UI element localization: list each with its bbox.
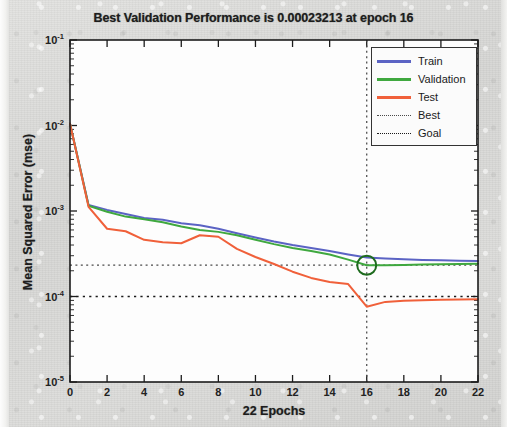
legend-item-validation[interactable]: Validation: [372, 70, 476, 88]
x-tick-label: 2: [92, 386, 122, 398]
x-tick-label: 4: [129, 386, 159, 398]
y-tick-label: 10-1: [0, 32, 64, 46]
x-tick-label: 6: [166, 386, 196, 398]
x-tick-label: 18: [389, 386, 419, 398]
legend-label: Train: [418, 55, 443, 67]
x-tick-label: 8: [203, 386, 233, 398]
legend-swatch-test: [377, 96, 411, 99]
legend-swatch-train: [377, 60, 411, 63]
plot-title: Best Validation Performance is 0.0002321…: [0, 11, 507, 25]
legend-label: Best: [418, 109, 440, 121]
y-tick-mantissa: 10: [45, 290, 57, 302]
x-tick-label: 10: [240, 386, 270, 398]
x-tick-label: 0: [55, 386, 85, 398]
y-tick-label: 10-3: [0, 203, 64, 217]
legend-label: Test: [418, 91, 438, 103]
y-tick-mantissa: 10: [45, 34, 57, 46]
legend-swatch-best: [377, 115, 411, 116]
x-tick-label: 16: [352, 386, 382, 398]
x-tick-label: 22: [463, 386, 493, 398]
y-tick-exponent: -3: [57, 203, 64, 212]
legend-item-goal[interactable]: Goal: [372, 124, 476, 142]
legend-item-test[interactable]: Test: [372, 88, 476, 106]
y-tick-label: 10-2: [0, 118, 64, 132]
performance-plot: Best Validation Performance is 0.0002321…: [0, 0, 507, 427]
legend-label: Goal: [418, 127, 441, 139]
legend-label: Validation: [418, 73, 466, 85]
x-axis-label: 22 Epochs: [70, 404, 478, 418]
x-tick-label: 20: [426, 386, 456, 398]
x-tick-label: 14: [315, 386, 345, 398]
legend-item-best[interactable]: Best: [372, 106, 476, 124]
y-tick-mantissa: 10: [45, 119, 57, 131]
legend-swatch-validation: [377, 78, 411, 81]
legend-item-train[interactable]: Train: [372, 52, 476, 70]
y-tick-exponent: -1: [57, 32, 64, 41]
y-tick-label: 10-4: [0, 289, 64, 303]
legend-swatch-goal: [377, 133, 411, 134]
y-tick-exponent: -4: [57, 289, 64, 298]
y-tick-mantissa: 10: [45, 205, 57, 217]
y-tick-exponent: -5: [57, 374, 64, 383]
x-tick-label: 12: [278, 386, 308, 398]
plot-legend: TrainValidationTestBestGoal: [371, 47, 477, 146]
y-tick-exponent: -2: [57, 118, 64, 127]
figure-root: Best Validation Performance is 0.0002321…: [0, 0, 507, 427]
